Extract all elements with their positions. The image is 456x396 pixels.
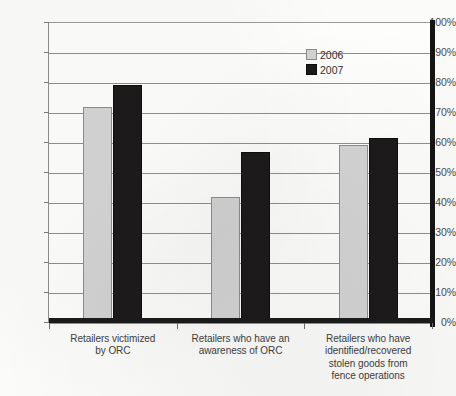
bar-2006-group-2 (211, 197, 240, 322)
x-axis-tick (49, 323, 50, 329)
legend-swatch-2007-icon (306, 64, 317, 75)
bars-layer (49, 22, 432, 322)
x-axis-category-label-line: awareness of ORC (169, 345, 313, 357)
x-axis-category-label-line: stolen goods from (296, 358, 440, 370)
x-axis-tick (177, 323, 178, 329)
legend-item-2006: 2006 (306, 47, 343, 62)
bar-2007-group-2 (241, 152, 270, 322)
legend-label-2007: 2007 (320, 64, 343, 76)
legend-label-2006: 2006 (320, 49, 343, 61)
x-axis-tick (304, 323, 305, 329)
x-axis-category-label-line: Retailers who have an (169, 333, 313, 345)
x-axis-category-label-line: Retailers who have (296, 333, 440, 345)
bar-2007-group-3 (369, 138, 398, 322)
bar-2006-group-1 (83, 107, 112, 322)
legend-item-2007: 2007 (306, 62, 343, 77)
bar-2007-group-1 (113, 85, 142, 322)
x-axis-category-label-line: by ORC (41, 345, 185, 357)
plot-right-border (430, 20, 435, 327)
x-axis-category-label-line: fence operations (296, 370, 440, 382)
x-axis-category-label: Retailers who have anawareness of ORC (169, 333, 313, 358)
chart-screenshot: 100%90%80%70%60%50%40%30%20%10%0% Retail… (0, 0, 456, 396)
legend: 2006 2007 (306, 47, 343, 77)
x-axis-category-label: Retailers who haveidentified/recoveredst… (296, 333, 440, 383)
x-axis-category-label: Retailers victimizedby ORC (41, 333, 185, 358)
x-axis-category-label-line: identified/recovered (296, 345, 440, 357)
x-axis-line (49, 318, 433, 323)
legend-swatch-2006-icon (306, 49, 317, 60)
x-axis-tick (432, 323, 433, 329)
bar-2006-group-3 (339, 145, 368, 322)
x-axis-category-label-line: Retailers victimized (41, 333, 185, 345)
